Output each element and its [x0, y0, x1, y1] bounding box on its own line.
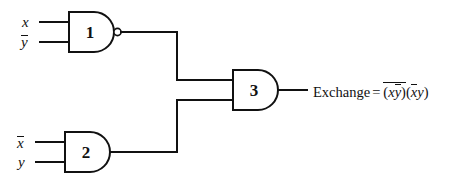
output-expression: Exchange=(xy)(xy) — [313, 81, 428, 101]
input-label-y-gate2: y — [18, 155, 25, 170]
input-label-ybar-gate1-text: y — [21, 34, 28, 50]
input-label-x-gate1-text: x — [22, 14, 29, 30]
gate-2-number: 2 — [75, 144, 97, 161]
gate-3-number: 3 — [243, 82, 265, 99]
output-term-2-and: (xy) — [406, 83, 429, 101]
term2-var-x-bar: x — [411, 83, 417, 101]
term1-var-y-bar: y — [395, 83, 401, 101]
input-label-xbar-gate2: x — [17, 135, 24, 151]
output-equals-sign: = — [370, 84, 383, 100]
output-term-1-nand: (xy) — [383, 81, 406, 101]
wire-gate2-to-gate3 — [110, 100, 233, 152]
gate-1-number: 1 — [79, 24, 101, 41]
input-label-ybar-gate1: y — [21, 34, 28, 50]
term2-close-paren: ) — [424, 84, 429, 100]
input-label-y-gate2-text: y — [18, 154, 25, 170]
logic-circuit-diagram: 1 2 3 x y x y Exchange=(xy)(xy) — [0, 0, 451, 184]
input-label-x-gate1: x — [22, 15, 29, 30]
input-label-xbar-gate2-text: x — [17, 135, 24, 151]
output-name: Exchange — [313, 84, 370, 100]
gate-2-and — [36, 132, 110, 172]
wire-gate1-to-gate3 — [121, 32, 233, 80]
